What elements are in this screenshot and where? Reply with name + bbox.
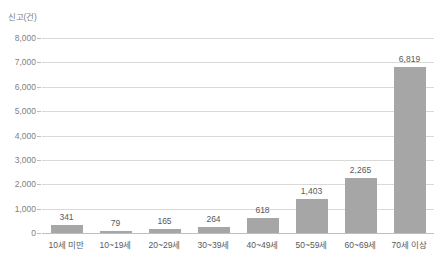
axis-baseline bbox=[42, 233, 434, 234]
bar-slot: 1,403 bbox=[287, 38, 336, 233]
bar[interactable] bbox=[149, 229, 181, 233]
y-axis-tick-label: 1,000 bbox=[2, 204, 36, 214]
bar-slot: 2,265 bbox=[336, 38, 385, 233]
bar[interactable] bbox=[296, 199, 328, 233]
bar-slot: 6,819 bbox=[385, 38, 434, 233]
bar-slot: 341 bbox=[42, 38, 91, 233]
bar-series: 341791652646181,4032,2656,819 bbox=[42, 38, 434, 233]
bar-value-label: 6,819 bbox=[399, 54, 420, 64]
y-axis-tick-mark bbox=[37, 136, 41, 137]
bar[interactable] bbox=[51, 225, 83, 233]
bar-chart: 신고(건) 01,0002,0003,0004,0005,0006,0007,0… bbox=[0, 0, 438, 263]
x-axis-category-label: 60~69세 bbox=[345, 238, 377, 250]
y-axis-tick-label: 5,000 bbox=[2, 106, 36, 116]
bar-value-label: 1,403 bbox=[301, 186, 322, 196]
bar[interactable] bbox=[100, 231, 132, 233]
bar-slot: 264 bbox=[189, 38, 238, 233]
bar[interactable] bbox=[247, 218, 279, 233]
x-axis-category-label: 40~49세 bbox=[247, 238, 279, 250]
y-axis-tick-label: 4,000 bbox=[2, 131, 36, 141]
y-axis-tick-label: 3,000 bbox=[2, 155, 36, 165]
x-axis-category-label: 10세 미만 bbox=[49, 238, 85, 250]
x-axis-category-label: 70세 이상 bbox=[392, 238, 428, 250]
bar[interactable] bbox=[345, 178, 377, 233]
x-axis-category-label: 30~39세 bbox=[198, 238, 230, 250]
bar-value-label: 2,265 bbox=[350, 165, 371, 175]
bar-value-label: 341 bbox=[59, 212, 73, 222]
y-axis-tick-mark bbox=[37, 111, 41, 112]
x-axis-category-label: 10~19세 bbox=[100, 238, 132, 250]
y-axis-tick-label: 2,000 bbox=[2, 179, 36, 189]
y-axis-tick-mark bbox=[37, 209, 41, 210]
y-axis-tick-mark bbox=[37, 233, 41, 234]
y-axis-tick-mark bbox=[37, 160, 41, 161]
bar-slot: 79 bbox=[91, 38, 140, 233]
bar-value-label: 79 bbox=[111, 218, 120, 228]
y-axis-tick-label: 0 bbox=[2, 228, 36, 238]
x-axis-category-label: 50~59세 bbox=[296, 238, 328, 250]
y-axis-tick-label: 8,000 bbox=[2, 33, 36, 43]
bar[interactable] bbox=[198, 227, 230, 233]
x-axis-category-label: 20~29세 bbox=[149, 238, 181, 250]
y-axis-tick-mark bbox=[37, 62, 41, 63]
bar-value-label: 264 bbox=[206, 214, 220, 224]
bar-slot: 165 bbox=[140, 38, 189, 233]
y-axis-tick-mark bbox=[37, 87, 41, 88]
y-axis-tick-labels: 01,0002,0003,0004,0005,0006,0007,0008,00… bbox=[0, 38, 36, 233]
bar-value-label: 165 bbox=[157, 216, 171, 226]
y-axis-tick-label: 6,000 bbox=[2, 82, 36, 92]
y-axis-tick-label: 7,000 bbox=[2, 57, 36, 67]
bar[interactable] bbox=[394, 67, 426, 233]
y-axis-tick-mark bbox=[37, 38, 41, 39]
bar-value-label: 618 bbox=[255, 205, 269, 215]
y-axis-tick-mark bbox=[37, 184, 41, 185]
bar-slot: 618 bbox=[238, 38, 287, 233]
x-axis-tick-labels: 10세 미만10~19세20~29세30~39세40~49세50~59세60~6… bbox=[42, 238, 434, 256]
y-axis-unit-label: 신고(건) bbox=[8, 10, 37, 22]
